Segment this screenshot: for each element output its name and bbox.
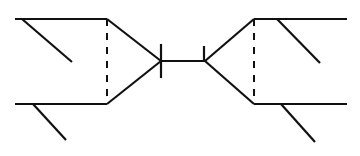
diagram-canvas: Feynman diagram: two three-body vertices…: [0, 0, 360, 156]
feynman-diagram: Feynman diagram: two three-body vertices…: [0, 0, 360, 156]
